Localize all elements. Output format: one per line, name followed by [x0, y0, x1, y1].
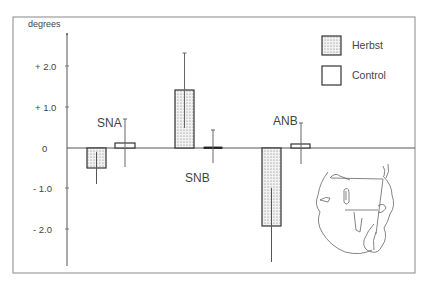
y-axis-label: degrees	[28, 19, 61, 29]
legend-swatch-herbst	[322, 36, 341, 55]
category-label-sna: SNA	[97, 116, 122, 130]
y-tick-label: - 1.0	[33, 183, 52, 194]
legend-label-control: Control	[352, 69, 386, 81]
chart-frame	[13, 17, 415, 273]
legend-label-herbst: Herbst	[352, 39, 383, 51]
bar-chart: degrees + 2.0 + 1.0 0 - 1.0 - 2.0 SNA SN…	[0, 0, 425, 284]
category-label-snb: SNB	[185, 171, 210, 185]
legend-swatch-control	[322, 66, 341, 85]
y-tick-label: 0	[42, 143, 47, 154]
category-label-anb: ANB	[273, 114, 298, 128]
y-tick-label: - 2.0	[33, 224, 52, 235]
y-tick-label: + 1.0	[35, 102, 56, 113]
y-tick-label: + 2.0	[35, 61, 56, 72]
